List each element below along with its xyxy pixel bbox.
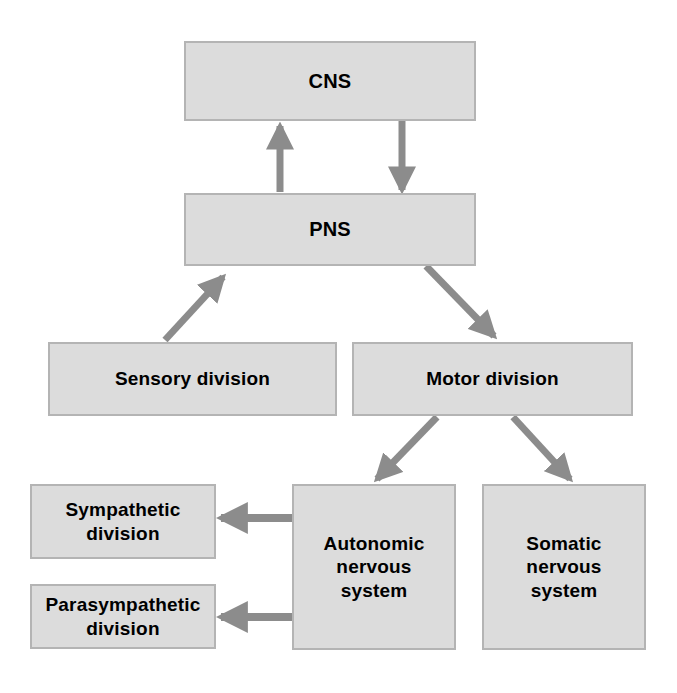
node-motor-division-label: Motor division	[354, 367, 631, 390]
node-sensory-division[interactable]: Sensory division	[48, 342, 337, 416]
node-somatic-nervous-system[interactable]: Somatic nervous system	[482, 484, 646, 650]
node-somatic-nervous-system-label: Somatic nervous system	[484, 532, 644, 602]
node-sympathetic-division-label: Sympathetic division	[32, 498, 214, 544]
node-autonomic-nervous-system[interactable]: Autonomic nervous system	[292, 484, 456, 650]
arrow-motor-to-sns	[513, 417, 570, 479]
node-parasympathetic-division-label: Parasympathetic division	[32, 593, 214, 639]
node-motor-division[interactable]: Motor division	[352, 342, 633, 416]
node-autonomic-nervous-system-label: Autonomic nervous system	[294, 532, 454, 602]
node-parasympathetic-division[interactable]: Parasympathetic division	[30, 584, 216, 649]
arrow-pns-to-motor	[426, 266, 494, 336]
node-pns[interactable]: PNS	[184, 193, 476, 266]
node-sympathetic-division[interactable]: Sympathetic division	[30, 484, 216, 559]
arrow-sensory-to-pns	[165, 277, 223, 340]
nervous-system-diagram: CNS PNS Sensory division Motor division …	[0, 0, 677, 693]
node-pns-label: PNS	[186, 217, 474, 241]
node-cns-label: CNS	[186, 69, 474, 93]
node-cns[interactable]: CNS	[184, 41, 476, 121]
node-sensory-division-label: Sensory division	[50, 367, 335, 390]
arrow-motor-to-ans	[377, 417, 437, 479]
